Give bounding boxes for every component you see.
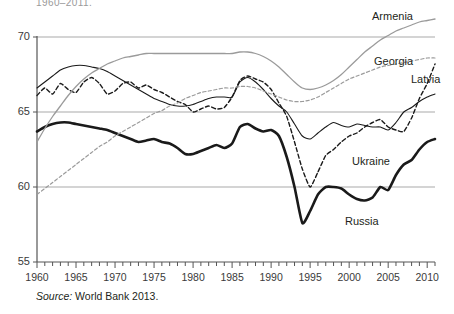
x-tick-1995: 1995 bbox=[290, 271, 330, 283]
series-label-armenia: Armenia bbox=[372, 10, 413, 22]
x-tick-2010: 2010 bbox=[407, 271, 447, 283]
figure-container: 1960–2011. 70656055 19601965197019751980… bbox=[0, 0, 454, 314]
x-tick-1965: 1965 bbox=[56, 271, 96, 283]
y-tick-60: 60 bbox=[4, 180, 30, 192]
x-tick-1975: 1975 bbox=[134, 271, 174, 283]
x-tick-1985: 1985 bbox=[212, 271, 252, 283]
y-tick-70: 70 bbox=[4, 30, 30, 42]
series-curves bbox=[37, 19, 435, 223]
axis-lines bbox=[33, 36, 435, 262]
source-note: Source: World Bank 2013. bbox=[36, 290, 158, 302]
series-label-ukraine: Ukraine bbox=[352, 155, 390, 167]
series-label-latvia: Latvia bbox=[411, 73, 440, 85]
x-minor-ticks bbox=[37, 262, 435, 268]
x-tick-1960: 1960 bbox=[17, 271, 57, 283]
series-line-georgia bbox=[37, 58, 435, 195]
x-tick-1970: 1970 bbox=[95, 271, 135, 283]
y-tick-65: 65 bbox=[4, 105, 30, 117]
y-tick-55: 55 bbox=[4, 255, 30, 267]
x-tick-2005: 2005 bbox=[368, 271, 408, 283]
series-label-georgia: Georgia bbox=[374, 55, 413, 67]
source-text: World Bank 2013. bbox=[75, 290, 158, 302]
series-label-russia: Russia bbox=[345, 215, 379, 227]
source-prefix: Source: bbox=[36, 290, 72, 302]
x-tick-1980: 1980 bbox=[173, 271, 213, 283]
x-tick-1990: 1990 bbox=[251, 271, 291, 283]
x-tick-2000: 2000 bbox=[329, 271, 369, 283]
series-line-russia bbox=[37, 122, 435, 223]
series-line-latvia bbox=[37, 64, 435, 187]
